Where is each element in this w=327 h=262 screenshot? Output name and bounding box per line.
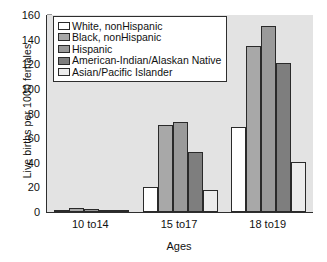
y-axis-tick-labels: 020406080100120140160	[6, 15, 40, 212]
x-axis-title: Ages	[46, 240, 312, 252]
legend-item: American-Indian/Alaskan Native	[58, 55, 221, 67]
y-tick-label: 60	[6, 133, 40, 144]
legend-item: Black, nonHispanic	[58, 32, 221, 44]
y-tick-label: 80	[6, 108, 40, 119]
legend-item: White, nonHispanic	[58, 20, 221, 32]
bar	[188, 152, 203, 212]
y-tick-label: 140	[6, 34, 40, 45]
bar-group	[229, 15, 309, 212]
bar	[158, 125, 173, 212]
y-tick-label: 160	[6, 10, 40, 21]
x-axis-tick-labels: 10 to1415 to1718 to19	[46, 218, 312, 234]
x-tick-label: 15 to17	[161, 218, 198, 230]
bar	[246, 46, 261, 212]
legend-swatch-icon	[58, 22, 70, 30]
legend-swatch-icon	[58, 45, 70, 53]
bar	[173, 122, 188, 212]
bar	[114, 210, 129, 212]
legend-item: Asian/Pacific Islander	[58, 66, 221, 78]
chart-legend: White, nonHispanicBlack, nonHispanicHisp…	[53, 16, 227, 82]
y-tick-label: 120	[6, 59, 40, 70]
legend-label: Black, nonHispanic	[72, 32, 161, 43]
bar	[231, 127, 246, 212]
legend-label: Hispanic	[72, 44, 112, 55]
bar	[203, 190, 218, 212]
y-tick-label: 100	[6, 83, 40, 94]
bar	[291, 162, 306, 212]
y-tick-label: 40	[6, 157, 40, 168]
bar	[69, 208, 84, 212]
bar	[84, 209, 99, 212]
bar	[54, 210, 69, 212]
x-tick-label: 10 to14	[72, 218, 109, 230]
legend-swatch-icon	[58, 68, 70, 76]
bar	[143, 187, 158, 212]
legend-label: Asian/Pacific Islander	[72, 67, 172, 78]
x-tick-label: 18 to19	[249, 218, 286, 230]
legend-swatch-icon	[58, 57, 70, 65]
y-tick-label: 0	[6, 207, 40, 218]
bar	[276, 63, 291, 212]
y-tick-label: 20	[6, 182, 40, 193]
legend-label: White, nonHispanic	[72, 21, 162, 32]
bar	[99, 210, 114, 212]
bar	[261, 26, 276, 212]
legend-item: Hispanic	[58, 43, 221, 55]
legend-swatch-icon	[58, 33, 70, 41]
grouped-bar-chart: Live births per 1000 females 02040608010…	[0, 0, 327, 262]
legend-label: American-Indian/Alaskan Native	[72, 55, 221, 66]
